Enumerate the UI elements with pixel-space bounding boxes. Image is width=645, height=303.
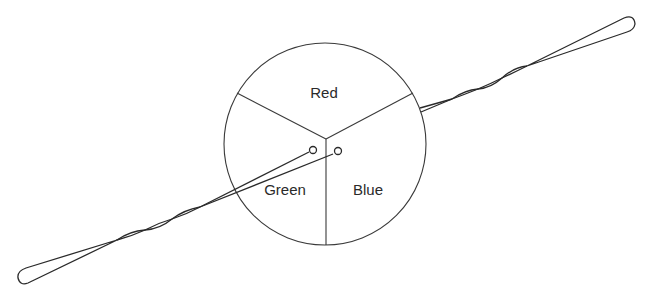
sector-label-green: Green [264,181,306,198]
pin-contact-right [335,148,342,155]
wire-strand-left-b [200,154,333,207]
color-wheel-diagram: Red Green Blue [0,0,645,303]
wire-twist-left-b [117,207,200,240]
wire-loop-left [18,240,117,284]
color-disk [224,43,426,245]
wire-strand-right-b [421,99,452,112]
sector-label-blue: Blue [353,181,383,198]
divider-red-blue [326,93,413,139]
sector-label-red: Red [310,84,338,101]
wire-twist-right-b [452,66,527,99]
wire-strand-left-a [200,152,309,207]
wire-left-arm [18,152,333,284]
wire-loop-right [527,17,635,66]
wire-right-arm [420,17,635,112]
pin-contact-left [310,147,317,154]
disk-outline [224,43,426,245]
